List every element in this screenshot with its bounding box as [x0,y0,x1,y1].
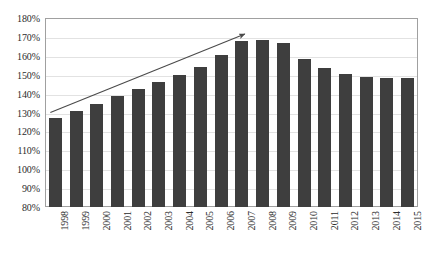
bar [235,41,248,207]
x-tick-label: 2007 [246,211,257,231]
bar [380,78,393,207]
x-tick-label: 2015 [412,211,423,231]
y-tick-label: 160% [17,50,40,61]
bar [360,77,373,207]
bar [277,43,290,207]
y-axis: 180%170%160%150%140%130%120%110%100%90%8… [0,0,43,264]
x-axis: 1998199920002001200220032004200520062007… [45,207,418,264]
x-tick-label: 1999 [80,211,91,231]
x-tick-label: 2014 [391,211,402,231]
x-tick-label: 2010 [308,211,319,231]
bar [256,40,269,207]
x-tick-label: 2009 [287,211,298,231]
x-tick-label: 2008 [267,211,278,231]
bar [49,118,62,207]
bar [90,104,103,207]
x-tick-label: 2006 [225,211,236,231]
bar [401,78,414,207]
x-tick-label: 2003 [163,211,174,231]
y-tick-label: 140% [17,88,40,99]
x-tick-label: 2002 [142,211,153,231]
y-tick-label: 180% [17,13,40,24]
bar [318,68,331,207]
x-tick-label: 2012 [349,211,360,231]
bar [173,75,186,207]
bar [70,111,83,207]
y-tick-label: 130% [17,107,40,118]
bar [132,89,145,207]
y-tick-label: 100% [17,164,40,175]
bar [194,67,207,207]
bar [215,55,228,207]
bar [339,74,352,207]
x-tick-label: 2005 [204,211,215,231]
bar [152,82,165,207]
x-tick-label: 2013 [370,211,381,231]
bars-series [45,18,418,207]
bar [111,96,124,208]
y-tick-label: 170% [17,31,40,42]
x-tick-label: 2011 [329,211,340,230]
y-tick-label: 110% [17,145,40,156]
x-tick-label: 2004 [184,211,195,231]
bar [298,59,311,207]
y-tick-label: 120% [17,126,40,137]
x-tick-label: 1998 [59,211,70,231]
x-tick-label: 2001 [122,211,133,231]
y-tick-label: 90% [22,183,40,194]
x-tick-label: 2000 [101,211,112,231]
y-tick-label: 80% [22,202,40,213]
y-tick-label: 150% [17,69,40,80]
bar-chart: 180%170%160%150%140%130%120%110%100%90%8… [0,0,431,264]
